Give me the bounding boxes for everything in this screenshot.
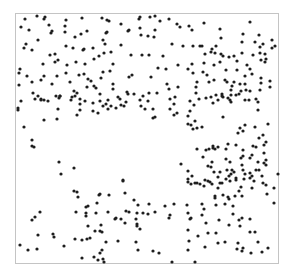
data-point — [253, 230, 256, 233]
data-point — [78, 108, 81, 111]
data-point — [243, 98, 246, 101]
data-point — [268, 85, 271, 88]
data-point — [102, 51, 105, 54]
data-point — [42, 98, 45, 101]
data-point — [231, 204, 234, 207]
data-point — [26, 248, 29, 251]
data-point — [203, 52, 206, 55]
data-point — [224, 177, 227, 180]
data-point — [77, 73, 80, 76]
data-point — [186, 211, 189, 214]
data-point — [50, 82, 53, 85]
data-point — [231, 212, 234, 215]
data-point — [179, 162, 182, 165]
data-point — [79, 32, 82, 35]
data-point — [119, 43, 122, 46]
data-point — [220, 94, 223, 97]
scatter-plot — [15, 13, 279, 264]
data-point — [127, 28, 130, 31]
data-point — [204, 221, 207, 224]
data-point — [22, 46, 25, 49]
data-point — [86, 77, 89, 80]
data-point — [42, 74, 45, 77]
data-point — [268, 79, 271, 82]
data-point — [214, 44, 217, 47]
data-point — [264, 183, 267, 186]
data-point — [146, 34, 149, 37]
data-point — [99, 223, 102, 226]
data-point — [192, 103, 195, 106]
data-point — [228, 179, 231, 182]
data-point — [163, 204, 166, 207]
data-point — [258, 45, 261, 48]
data-point — [214, 93, 217, 96]
data-point — [147, 53, 150, 56]
data-point — [251, 144, 254, 147]
data-point — [234, 143, 237, 146]
data-point — [107, 19, 110, 22]
data-point — [47, 23, 50, 26]
data-point — [116, 239, 119, 242]
data-point — [55, 117, 58, 120]
data-point — [187, 24, 190, 27]
data-point — [201, 155, 204, 158]
data-point — [173, 95, 176, 98]
data-point — [151, 107, 154, 110]
data-point — [210, 47, 213, 50]
data-point — [57, 96, 60, 99]
data-point — [157, 251, 160, 254]
data-point — [106, 98, 109, 101]
data-point — [251, 53, 254, 56]
data-point — [187, 239, 190, 242]
data-point — [189, 182, 192, 185]
data-point — [244, 88, 247, 91]
data-point — [94, 211, 97, 214]
data-point — [82, 72, 85, 75]
data-point — [89, 79, 92, 82]
data-point — [38, 210, 41, 213]
data-point — [204, 148, 207, 151]
data-point — [194, 91, 197, 94]
data-point — [31, 91, 34, 94]
data-point — [92, 57, 95, 60]
data-point — [233, 194, 236, 197]
data-point — [193, 181, 196, 184]
data-point — [247, 98, 250, 101]
data-point — [42, 118, 45, 121]
data-point — [103, 42, 106, 45]
data-point — [240, 51, 243, 54]
data-point — [127, 210, 130, 213]
data-point — [224, 147, 227, 150]
data-point — [153, 115, 156, 118]
data-point — [257, 33, 260, 36]
data-point — [241, 32, 244, 35]
data-point — [178, 25, 181, 28]
data-point — [256, 240, 259, 243]
data-point — [232, 170, 235, 173]
data-point — [205, 73, 208, 76]
data-point — [143, 107, 146, 110]
data-point — [18, 67, 21, 70]
data-point — [195, 126, 198, 129]
data-point — [172, 202, 175, 205]
data-point — [276, 172, 279, 175]
data-point — [69, 98, 72, 101]
data-point — [223, 202, 226, 205]
data-point — [85, 29, 88, 32]
data-point — [239, 89, 242, 92]
data-point — [213, 147, 216, 150]
data-point — [98, 251, 101, 254]
data-point — [139, 104, 142, 107]
data-point — [235, 68, 238, 71]
data-point — [93, 229, 96, 232]
data-point — [250, 186, 253, 189]
data-point — [217, 218, 220, 221]
data-point — [101, 257, 104, 260]
data-point — [100, 230, 103, 233]
data-point — [191, 127, 194, 130]
data-point — [124, 100, 127, 103]
data-point — [259, 58, 262, 61]
data-point — [123, 191, 126, 194]
data-point — [30, 80, 33, 83]
data-point — [257, 136, 260, 139]
